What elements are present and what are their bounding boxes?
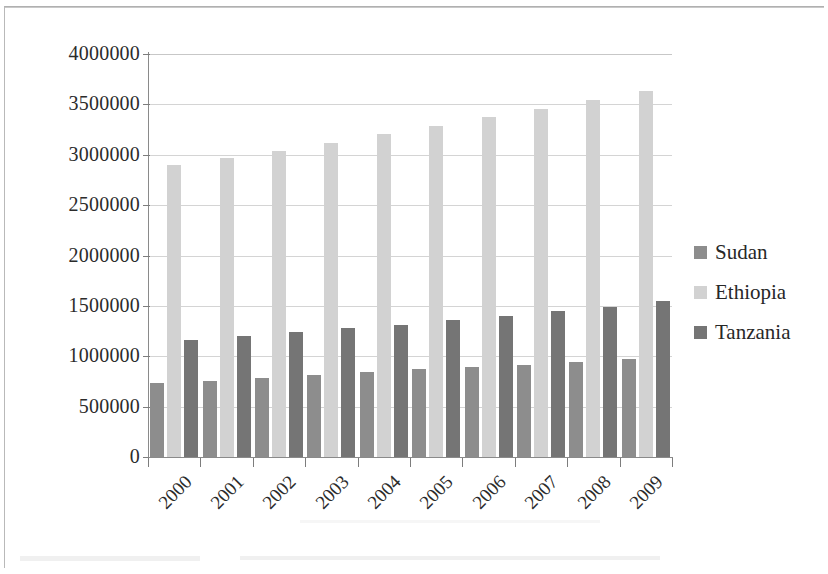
bar-ethiopia-2000 <box>167 165 181 457</box>
bar-tanzania-2000 <box>184 340 198 457</box>
bar-ethiopia-2004 <box>377 134 391 457</box>
bar-sudan-2009 <box>622 359 636 457</box>
y-tick-label: 2500000 <box>69 193 140 216</box>
legend-label: Tanzania <box>715 320 790 345</box>
x-tick-label-2004: 2004 <box>358 471 406 519</box>
bar-sudan-2003 <box>307 375 321 457</box>
y-tick-mark <box>143 205 150 206</box>
y-tick-label: 2000000 <box>69 244 140 267</box>
x-tick-label-2009: 2009 <box>620 471 668 519</box>
bar-sudan-2002 <box>255 378 269 457</box>
bar-tanzania-2006 <box>499 316 513 457</box>
bar-tanzania-2008 <box>603 307 617 457</box>
bar-sudan-2001 <box>203 381 217 457</box>
y-tick-label: 0 <box>130 445 140 468</box>
x-tick-label-2008: 2008 <box>567 471 615 519</box>
bar-group <box>567 54 619 457</box>
bar-sudan-2004 <box>360 372 374 457</box>
legend-item-ethiopia[interactable]: Ethiopia <box>694 272 824 312</box>
bar-ethiopia-2001 <box>220 158 234 457</box>
y-tick-mark <box>143 155 150 156</box>
bar-tanzania-2009 <box>656 301 670 457</box>
y-axis: 4000000350000030000002500000200000015000… <box>148 52 149 459</box>
bar-sudan-2008 <box>569 362 583 457</box>
scan-smudge <box>300 520 600 523</box>
bar-tanzania-2005 <box>446 320 460 457</box>
x-tick-label-2003: 2003 <box>305 471 353 519</box>
bar-ethiopia-2009 <box>639 91 653 457</box>
y-tick-mark <box>143 256 150 257</box>
bar-group <box>305 54 357 457</box>
x-tick-label-2002: 2002 <box>253 471 301 519</box>
legend-item-sudan[interactable]: Sudan <box>694 232 824 272</box>
bar-tanzania-2003 <box>341 328 355 457</box>
y-tick-mark <box>143 356 150 357</box>
scan-smudge <box>240 556 660 560</box>
bar-ethiopia-2002 <box>272 151 286 457</box>
y-tick-mark <box>143 306 150 307</box>
y-tick-label: 4000000 <box>69 42 140 65</box>
bar-sudan-2000 <box>150 383 164 457</box>
x-tick-label-2001: 2001 <box>200 471 248 519</box>
y-tick-label: 3500000 <box>69 92 140 115</box>
x-axis <box>148 457 673 458</box>
x-tick-label-2007: 2007 <box>515 471 563 519</box>
y-tick-label: 3000000 <box>69 143 140 166</box>
chart-legend: SudanEthiopiaTanzania <box>694 232 824 352</box>
x-axis-labels: 2000200120022003200420052006200720082009 <box>148 463 673 543</box>
bar-ethiopia-2005 <box>429 126 443 457</box>
x-tick-label-2000: 2000 <box>148 471 196 519</box>
bar-ethiopia-2007 <box>534 109 548 457</box>
legend-swatch-icon <box>694 286 707 299</box>
bar-chart: 4000000350000030000002500000200000015000… <box>0 0 828 574</box>
legend-swatch-icon <box>694 326 707 339</box>
bar-tanzania-2001 <box>237 336 251 457</box>
y-tick-label: 500000 <box>79 395 140 418</box>
bar-group <box>200 54 252 457</box>
y-tick-label: 1500000 <box>69 294 140 317</box>
bar-group <box>358 54 410 457</box>
bar-tanzania-2007 <box>551 311 565 457</box>
x-tick-label-2006: 2006 <box>462 471 510 519</box>
bar-group <box>515 54 567 457</box>
bar-group <box>462 54 514 457</box>
bar-group <box>410 54 462 457</box>
bar-sudan-2005 <box>412 369 426 457</box>
scan-smudge <box>20 556 200 561</box>
bar-sudan-2006 <box>465 367 479 457</box>
plot-area <box>148 54 672 457</box>
y-tick-mark <box>143 54 150 55</box>
y-tick-mark <box>143 407 150 408</box>
bar-group <box>148 54 200 457</box>
y-tick-mark <box>143 104 150 105</box>
x-tick-label-2005: 2005 <box>410 471 458 519</box>
legend-label: Sudan <box>715 240 768 265</box>
bar-groups <box>148 54 672 457</box>
bar-tanzania-2004 <box>394 325 408 457</box>
bar-group <box>620 54 672 457</box>
legend-label: Ethiopia <box>715 280 786 305</box>
bar-sudan-2007 <box>517 365 531 457</box>
bar-ethiopia-2006 <box>482 117 496 457</box>
legend-item-tanzania[interactable]: Tanzania <box>694 312 824 352</box>
legend-swatch-icon <box>694 246 707 259</box>
bar-group <box>253 54 305 457</box>
bar-tanzania-2002 <box>289 332 303 457</box>
bar-ethiopia-2008 <box>586 100 600 457</box>
y-tick-label: 1000000 <box>69 344 140 367</box>
bar-ethiopia-2003 <box>324 143 338 457</box>
